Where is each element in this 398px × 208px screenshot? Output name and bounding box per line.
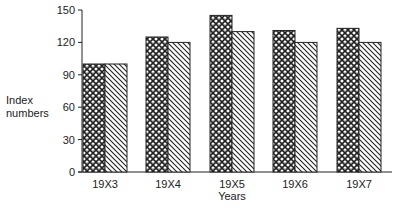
- bar-diagonal: [105, 64, 127, 172]
- bar-crosshatch: [273, 31, 295, 172]
- x-tick-label: 19X4: [155, 178, 181, 190]
- y-axis-title-line1: Index: [6, 94, 33, 106]
- bar-group-19X4: [146, 37, 190, 172]
- bar-group-19X5: [210, 15, 254, 172]
- bars-group: [83, 15, 381, 172]
- bar-group-19X3: [83, 64, 127, 172]
- y-tick-label: 0: [69, 166, 75, 178]
- x-tick-label: 19X3: [92, 178, 118, 190]
- bar-crosshatch: [210, 15, 232, 172]
- y-tick-label: 90: [63, 69, 75, 81]
- x-tick-label: 19X6: [282, 178, 308, 190]
- bar-group-19X7: [337, 28, 381, 172]
- bar-diagonal: [359, 42, 381, 172]
- bar-crosshatch: [146, 37, 168, 172]
- x-axis-title: Years: [218, 190, 246, 202]
- y-tick-label: 150: [57, 4, 75, 16]
- x-axis: 19X319X419X519X619X7: [78, 172, 392, 190]
- y-tick-label: 120: [57, 36, 75, 48]
- y-tick-label: 30: [63, 134, 75, 146]
- bar-group-19X6: [273, 31, 317, 172]
- y-axis: 0306090120150: [57, 4, 82, 178]
- bar-diagonal: [168, 42, 190, 172]
- x-tick-label: 19X5: [219, 178, 245, 190]
- y-tick-label: 60: [63, 101, 75, 113]
- bar-crosshatch: [337, 28, 359, 172]
- bar-chart: 0306090120150 19X319X419X519X619X7 Index…: [0, 0, 398, 208]
- x-tick-label: 19X7: [346, 178, 372, 190]
- bar-crosshatch: [83, 64, 105, 172]
- bar-diagonal: [232, 32, 254, 172]
- bar-diagonal: [295, 42, 317, 172]
- y-axis-title-line2: numbers: [6, 107, 49, 119]
